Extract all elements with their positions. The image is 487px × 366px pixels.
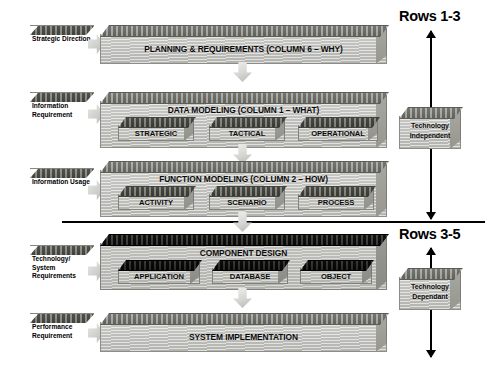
inbox-top-face	[30, 314, 94, 323]
diagram-canvas: Strategic Direction PLANNING & REQUIREME…	[0, 0, 487, 366]
row-label-planning: PLANNING & REQUIREMENTS (COLUMN 6 – WHY)	[100, 44, 387, 54]
inbox-face	[30, 25, 94, 26]
subbox-label: TACTICAL	[209, 129, 285, 138]
slab-top-face	[100, 234, 389, 246]
subbox-tactical: TACTICAL	[209, 117, 285, 141]
tech-box-label: Technology Independent	[399, 121, 461, 141]
inbox-face	[30, 92, 94, 93]
inbox-face	[30, 313, 94, 314]
subbox-operational: OPERATIONAL	[298, 117, 378, 141]
input-label: Information Requirement	[30, 102, 94, 119]
row-label-system-implementation: SYSTEM IMPLEMENTATION	[100, 332, 387, 342]
row-bar-system-implementation: SYSTEM IMPLEMENTATION	[100, 313, 387, 352]
subbox-top-face	[118, 186, 196, 197]
tech-box-dependant: Technology Dependant	[399, 268, 461, 310]
subbox-scenario: SCENARIO	[209, 186, 285, 210]
subbox-label: STRATEGIC	[118, 129, 194, 138]
inbox-top-face	[30, 93, 94, 102]
flow-arrow-down-1-icon	[233, 62, 252, 82]
row-label-function-modeling: FUNCTION MODELING (COLUMN 2 – HOW)	[100, 174, 387, 184]
input-box-performance-requirement: Performance Requirement	[30, 313, 94, 349]
row-bar-data-modeling: DATA MODELING (COLUMN 1 – WHAT) STRATEGI…	[100, 92, 387, 148]
subbox-top-face	[298, 117, 380, 128]
row-label-component-design: COMPONENT DESIGN	[100, 248, 387, 258]
inbox-top-face	[30, 169, 94, 178]
tech-box-independent: Technology Independent	[399, 107, 461, 149]
input-box-information-usage: Information Usage	[30, 168, 94, 205]
inbox-top-face	[30, 26, 94, 35]
slab-top-face	[100, 161, 389, 173]
subbox-process: PROCESS	[298, 186, 374, 210]
subbox-activity: ACTIVITY	[118, 186, 194, 210]
annotation-rows-1-3: Rows 1-3	[399, 8, 460, 24]
subbox-top-face	[209, 117, 287, 128]
subbox-object: OBJECT	[300, 260, 372, 284]
subbox-label: OBJECT	[300, 272, 372, 281]
input-label: Strategic Direction	[30, 35, 94, 44]
techbox-top-face	[399, 107, 463, 119]
subbox-label: PROCESS	[298, 198, 374, 207]
annotation-rows-3-5: Rows 3-5	[399, 226, 460, 242]
subbox-application: APPLICATION	[118, 260, 200, 284]
subbox-top-face	[212, 260, 290, 271]
input-box-technology-system-requirements: Technology/ System Requirements	[30, 245, 94, 289]
subbox-label: ACTIVITY	[118, 198, 194, 207]
row-bar-function-modeling: FUNCTION MODELING (COLUMN 2 – HOW) ACTIV…	[100, 161, 387, 217]
arrow-head-down-icon	[426, 350, 436, 358]
flow-arrow-down-4-icon	[233, 288, 252, 308]
input-box-strategic-direction: Strategic Direction	[30, 25, 94, 60]
arrow-head-up-icon	[426, 30, 436, 38]
slab-top-face	[100, 313, 389, 325]
subbox-top-face	[298, 186, 376, 197]
subbox-top-face	[209, 186, 287, 197]
subbox-top-face	[118, 117, 196, 128]
subbox-label: APPLICATION	[118, 272, 200, 281]
techbox-top-face	[399, 268, 463, 280]
inbox-face	[30, 168, 94, 169]
row-bar-planning: PLANNING & REQUIREMENTS (COLUMN 6 – WHY)	[100, 25, 387, 64]
slab-top-face	[100, 25, 389, 37]
input-box-information-requirement: Information Requirement	[30, 92, 94, 129]
input-label: Performance Requirement	[30, 323, 94, 340]
slab-top-face	[100, 92, 389, 104]
arrow-head-down-icon	[426, 212, 436, 220]
subbox-database: DATABASE	[212, 260, 288, 284]
row-bar-component-design: COMPONENT DESIGN APPLICATION DATABASE OB…	[100, 234, 387, 290]
subbox-top-face	[118, 260, 202, 271]
subbox-label: SCENARIO	[209, 198, 285, 207]
subbox-label: OPERATIONAL	[298, 129, 378, 138]
input-label: Information Usage	[30, 178, 94, 187]
row-label-data-modeling: DATA MODELING (COLUMN 1 – WHAT)	[100, 105, 387, 115]
arrow-head-up-icon	[426, 247, 436, 255]
inbox-face	[30, 245, 94, 246]
inbox-top-face	[30, 246, 94, 255]
section-divider-line	[62, 221, 485, 223]
input-label: Technology/ System Requirements	[30, 255, 94, 281]
subbox-top-face	[300, 260, 374, 271]
tech-box-label: Technology Dependant	[399, 282, 461, 302]
subbox-strategic: STRATEGIC	[118, 117, 194, 141]
subbox-label: DATABASE	[212, 272, 288, 281]
